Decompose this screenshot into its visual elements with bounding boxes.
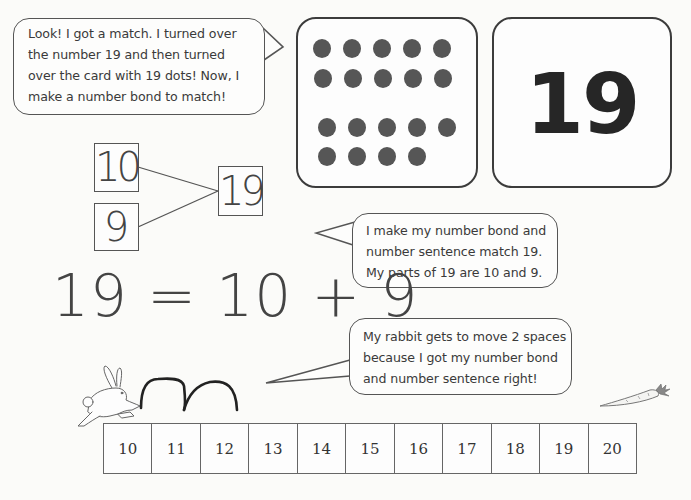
number-line-cell[interactable]: 11 [152, 424, 200, 473]
number-line: 10 11 12 13 14 15 16 17 18 19 20 [103, 423, 637, 474]
number-line-cell[interactable]: 13 [249, 424, 297, 473]
number-line-cell[interactable]: 19 [540, 424, 588, 473]
number-line-cell[interactable]: 14 [298, 424, 346, 473]
number-line-cell[interactable]: 12 [201, 424, 249, 473]
carrot-icon[interactable] [598, 380, 674, 412]
number-line-cell[interactable]: 20 [589, 424, 636, 473]
number-line-cell[interactable]: 17 [443, 424, 491, 473]
number-line-cell[interactable]: 18 [492, 424, 540, 473]
number-line-cell[interactable]: 15 [346, 424, 394, 473]
number-line-cell[interactable]: 10 [104, 424, 152, 473]
number-line-cell[interactable]: 16 [395, 424, 443, 473]
